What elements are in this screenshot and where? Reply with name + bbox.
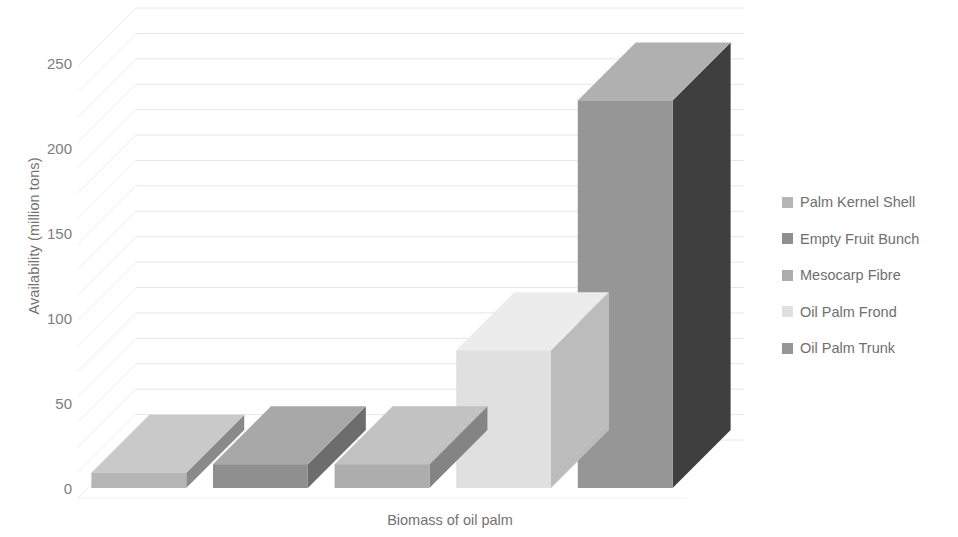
y-axis-tick-label: 100 [12,311,72,326]
legend-item-0[interactable]: Palm Kernel Shell [782,184,958,221]
left-wall [78,8,136,498]
legend-item-label: Empty Fruit Bunch [800,232,919,247]
legend-item-label: Oil Palm Trunk [800,341,895,356]
bar-side-face [673,42,731,488]
legend-item-2[interactable]: Mesocarp Fibre [782,257,958,294]
legend-swatch-icon [782,197,793,208]
y-axis-tick-label: 0 [12,481,72,496]
chart-legend: Palm Kernel ShellEmpty Fruit BunchMesoca… [782,184,958,367]
legend-item-4[interactable]: Oil Palm Trunk [782,330,958,367]
y-axis-tick-label: 150 [12,226,72,241]
chart-canvas: 250200150100500 Availability (million to… [0,0,958,537]
bar-front-face [335,464,430,488]
legend-item-label: Palm Kernel Shell [800,195,915,210]
legend-swatch-icon [782,306,793,317]
legend-item-label: Oil Palm Frond [800,305,897,320]
y-axis-tick-label: 200 [12,141,72,156]
legend-item-1[interactable]: Empty Fruit Bunch [782,221,958,258]
y-axis-tick-label: 50 [12,396,72,411]
y-axis-tick-label: 250 [12,56,72,71]
bar-front-face [91,473,186,488]
bar-front-face [213,464,308,488]
legend-swatch-icon [782,233,793,244]
legend-item-3[interactable]: Oil Palm Frond [782,294,958,331]
x-axis-title: Biomass of oil palm [150,512,750,528]
y-axis-title: Availability (million tons) [26,106,42,366]
legend-swatch-icon [782,270,793,281]
legend-swatch-icon [782,343,793,354]
legend-item-label: Mesocarp Fibre [800,268,901,283]
